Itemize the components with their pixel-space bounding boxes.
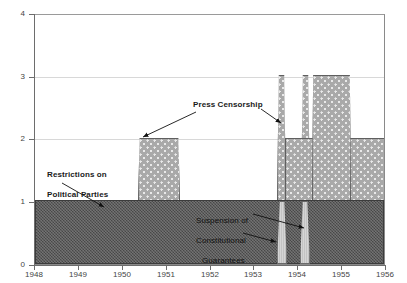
x-axis-label-1948: 1948: [14, 271, 54, 279]
y-tick-1: [29, 202, 34, 203]
annotation-suspension-line3: Guarantees: [196, 256, 248, 266]
y-axis-label-2: 2: [0, 135, 25, 143]
x-axis-label-1951: 1951: [146, 271, 186, 279]
x-axis-label-1949: 1949: [58, 271, 98, 279]
annotation-suspension-line1: Suspension of: [196, 216, 248, 226]
annotation-suspension-line2: Constitutional: [196, 236, 248, 246]
y-axis-label-0: 0: [0, 261, 25, 269]
x-axis-label-1956: 1956: [365, 271, 405, 279]
y-axis-label-3: 3: [0, 73, 25, 81]
area-segment-censorship-1955: [312, 75, 351, 201]
annotation-restrictions-line1: Restrictions on: [47, 170, 108, 180]
x-axis-label-1954: 1954: [277, 271, 317, 279]
y-axis-line: [34, 14, 35, 266]
annotation-suspension: Suspension of Constitutional Guarantees: [196, 206, 248, 276]
x-axis-label-1955: 1955: [321, 271, 361, 279]
chart-root: 4 3 2 1 0 1948 1949 1950 1951 1952 1953 …: [0, 0, 407, 283]
y-axis-label-1: 1: [0, 198, 25, 206]
area-segment-censorship-1951: [138, 138, 180, 201]
annotation-restrictions-line2: Political Parties: [47, 190, 108, 200]
y-axis-label-4: 4: [0, 10, 25, 18]
annotation-restrictions: Restrictions on Political Parties: [47, 160, 108, 210]
y-tick-3: [29, 77, 34, 78]
y-tick-2: [29, 139, 34, 140]
x-axis-label-1950: 1950: [102, 271, 142, 279]
y-tick-4: [29, 14, 34, 15]
annotation-press-censorship: Press Censorship: [193, 100, 263, 110]
